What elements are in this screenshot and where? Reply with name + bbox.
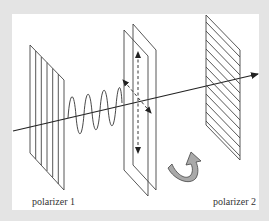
- polarization-diagram: [0, 0, 269, 221]
- polarizer-1-label: polarizer 1: [32, 197, 75, 207]
- light-wave: [68, 88, 122, 134]
- polarizer-2: [206, 15, 240, 160]
- polarizer-1: [30, 45, 64, 190]
- polarizer-2-label: polarizer 2: [213, 197, 256, 207]
- rotator-plate-front: [124, 30, 148, 196]
- rotation-arrow-icon: [168, 152, 201, 182]
- figure: polarizer 1 polarizer 2: [0, 0, 269, 221]
